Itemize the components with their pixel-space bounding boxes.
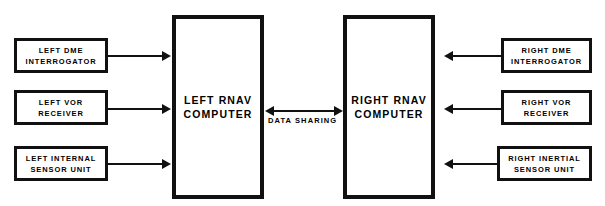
box-label-line2: SENSOR UNIT bbox=[30, 164, 91, 175]
box-label-line1: LEFT DME bbox=[39, 45, 84, 56]
arrowhead-left-vor-to-left-rnav bbox=[162, 104, 171, 114]
box-left-dme-interrogator: LEFT DME INTERROGATOR bbox=[14, 38, 108, 73]
arrowhead-right-vor-to-right-rnav bbox=[444, 104, 453, 114]
box-right-inertial-sensor-unit: RIGHT INERTIAL SENSOR UNIT bbox=[497, 146, 592, 181]
box-label-line1: RIGHT INERTIAL bbox=[508, 153, 581, 164]
arrowhead-left-sensor-to-left-rnav bbox=[162, 159, 171, 169]
box-label-line1: LEFT INTERNAL bbox=[26, 153, 96, 164]
computer-label-line2: COMPUTER bbox=[184, 107, 253, 121]
rnav-block-diagram: LEFT DME INTERROGATOR LEFT VOR RECEIVER … bbox=[0, 0, 605, 206]
connector-right-dme-to-right-rnav bbox=[453, 55, 501, 57]
box-label-line2: INTERROGATOR bbox=[26, 56, 97, 67]
connector-left-vor-to-left-rnav bbox=[108, 108, 163, 110]
box-label-line2: RECEIVER bbox=[38, 108, 84, 119]
box-label-line2: RECEIVER bbox=[524, 108, 570, 119]
box-right-rnav-computer: RIGHT RNAV COMPUTER bbox=[343, 15, 435, 199]
box-left-rnav-computer: LEFT RNAV COMPUTER bbox=[172, 15, 264, 199]
connector-data-sharing bbox=[273, 110, 334, 112]
box-label-line1: RIGHT DME bbox=[521, 45, 571, 56]
arrowhead-left-dme-to-left-rnav bbox=[162, 51, 171, 61]
connector-right-vor-to-right-rnav bbox=[453, 108, 501, 110]
arrowhead-right-sensor-to-right-rnav bbox=[444, 159, 453, 169]
box-left-internal-sensor-unit: LEFT INTERNAL SENSOR UNIT bbox=[14, 146, 108, 181]
connector-left-sensor-to-left-rnav bbox=[108, 163, 163, 165]
box-label-line2: SENSOR UNIT bbox=[514, 164, 575, 175]
computer-label-line1: RIGHT RNAV bbox=[351, 93, 427, 107]
connector-right-sensor-to-right-rnav bbox=[453, 163, 498, 165]
arrowhead-data-sharing-right bbox=[334, 106, 343, 116]
box-right-dme-interrogator: RIGHT DME INTERROGATOR bbox=[501, 38, 592, 73]
computer-label-line1: LEFT RNAV bbox=[184, 93, 252, 107]
arrowhead-right-dme-to-right-rnav bbox=[444, 51, 453, 61]
data-sharing-label: DATA SHARING bbox=[268, 116, 337, 125]
box-label-line2: INTERROGATOR bbox=[511, 56, 582, 67]
box-right-vor-receiver: RIGHT VOR RECEIVER bbox=[501, 90, 592, 125]
connector-left-dme-to-left-rnav bbox=[108, 55, 163, 57]
computer-label-line2: COMPUTER bbox=[355, 107, 424, 121]
box-label-line1: LEFT VOR bbox=[39, 97, 83, 108]
arrowhead-data-sharing-left bbox=[265, 106, 274, 116]
box-label-line1: RIGHT VOR bbox=[522, 97, 572, 108]
box-left-vor-receiver: LEFT VOR RECEIVER bbox=[14, 90, 108, 125]
